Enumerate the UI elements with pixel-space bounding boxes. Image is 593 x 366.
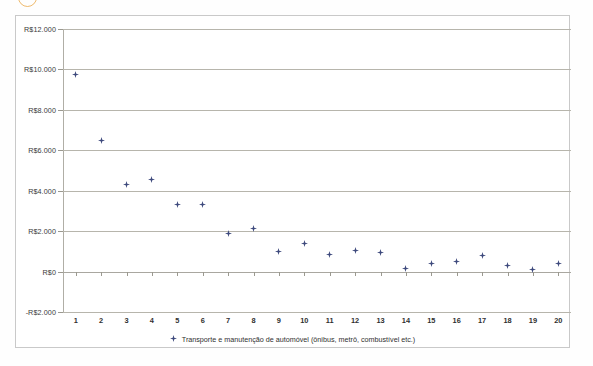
y-axis-label: R$8.000: [28, 105, 56, 114]
data-point-marker: [250, 225, 257, 232]
data-point-marker: [199, 201, 206, 208]
x-axis-tick: [254, 272, 255, 276]
x-axis-tick: [482, 272, 483, 276]
x-axis-label: 8: [251, 316, 255, 325]
x-axis-tick: [279, 272, 280, 276]
gridline: [63, 191, 571, 192]
x-axis-label: 9: [277, 316, 281, 325]
x-axis-tick: [330, 272, 331, 276]
gridline: [63, 150, 571, 151]
data-point-marker: [453, 258, 460, 265]
y-axis-label: R$0: [43, 267, 57, 276]
x-axis-tick: [177, 272, 178, 276]
x-axis-label: 1: [74, 316, 78, 325]
y-axis-tick: [58, 150, 63, 151]
x-axis-label: 6: [201, 316, 205, 325]
data-point-marker: [479, 252, 486, 259]
x-axis-label: 7: [226, 316, 230, 325]
x-axis-tick: [152, 272, 153, 276]
data-point-marker: [123, 181, 130, 188]
y-axis-label: -R$2.000: [26, 308, 56, 317]
data-point-marker: [301, 240, 308, 247]
x-axis-tick: [203, 272, 204, 276]
data-point-marker: [555, 260, 562, 267]
x-axis-tick: [457, 272, 458, 276]
x-axis-tick: [431, 272, 432, 276]
data-point-marker: [428, 260, 435, 267]
x-axis-label: 5: [175, 316, 179, 325]
y-axis-label: R$4.000: [28, 186, 56, 195]
x-axis-label: 3: [124, 316, 128, 325]
x-axis-label: 10: [300, 316, 308, 325]
data-point-marker: [352, 247, 359, 254]
x-axis-label: 11: [326, 316, 334, 325]
legend-entry-label: Transporte e manutenção de automóvel (ôn…: [182, 335, 415, 344]
y-axis-label: R$12.000: [24, 25, 56, 34]
x-axis-tick: [558, 272, 559, 276]
y-axis-tick: [58, 110, 63, 111]
y-axis-tick: [58, 191, 63, 192]
x-axis-tick: [101, 272, 102, 276]
data-point-marker: [72, 71, 79, 78]
x-axis-tick: [228, 272, 229, 276]
x-axis-label: 16: [453, 316, 461, 325]
x-axis-tick: [381, 272, 382, 276]
gridline: [63, 69, 571, 70]
y-axis-label: R$2.000: [28, 227, 56, 236]
x-axis-label: 4: [150, 316, 154, 325]
data-point-marker: [148, 176, 155, 183]
diamond-marker-icon: [170, 335, 177, 344]
x-axis-tick: [127, 272, 128, 276]
data-point-marker: [275, 248, 282, 255]
data-point-marker: [98, 137, 105, 144]
x-axis-label: 13: [376, 316, 384, 325]
chart-legend: Transporte e manutenção de automóvel (ôn…: [16, 334, 569, 344]
x-axis-label: 19: [529, 316, 537, 325]
data-point-marker: [377, 249, 384, 256]
gridline: [63, 272, 571, 273]
data-point-marker: [402, 265, 409, 272]
value-axis-line: [63, 29, 64, 312]
x-axis-label: 20: [554, 316, 562, 325]
data-point-marker: [504, 262, 511, 269]
x-axis-tick: [508, 272, 509, 276]
plot-area: R$12.000R$10.000R$8.000R$6.000R$4.000R$2…: [63, 29, 571, 312]
x-axis-label: 18: [503, 316, 511, 325]
chart-frame: R$12.000R$10.000R$8.000R$6.000R$4.000R$2…: [15, 15, 570, 348]
y-axis-tick: [58, 312, 63, 313]
data-point-marker: [529, 266, 536, 273]
x-axis-label: 15: [427, 316, 435, 325]
y-axis-label: R$10.000: [24, 65, 56, 74]
x-axis-tick: [304, 272, 305, 276]
y-axis-tick: [58, 231, 63, 232]
gridline: [63, 110, 571, 111]
gridline: [63, 29, 571, 30]
x-axis-label: 12: [351, 316, 359, 325]
gridline: [63, 231, 571, 232]
gridline: [63, 312, 571, 313]
x-axis-label: 17: [478, 316, 486, 325]
x-axis-tick: [76, 272, 77, 276]
data-point-marker: [225, 230, 232, 237]
y-axis-tick: [58, 272, 63, 273]
x-axis-tick: [355, 272, 356, 276]
x-axis-label: 14: [402, 316, 410, 325]
y-axis-tick: [58, 69, 63, 70]
data-point-marker: [326, 251, 333, 258]
data-point-marker: [174, 201, 181, 208]
y-axis-tick: [58, 29, 63, 30]
x-axis-label: 2: [99, 316, 103, 325]
y-axis-label: R$6.000: [28, 146, 56, 155]
